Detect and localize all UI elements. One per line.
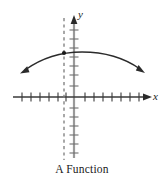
y-axis [70, 15, 79, 158]
curve-right-arrow-icon [136, 65, 145, 73]
y-axis-arrow-icon [71, 15, 78, 24]
y-axis-label: y [77, 8, 83, 20]
figure-caption: A Function [0, 163, 164, 175]
x-axis-label: x [152, 90, 158, 102]
x-axis [13, 93, 152, 102]
intersection-dot [62, 51, 66, 55]
function-graph-figure: y x A Function [0, 0, 164, 185]
coordinate-plane: y x [0, 0, 164, 165]
x-axis-arrow-icon [143, 93, 152, 100]
function-curve [25, 52, 140, 70]
